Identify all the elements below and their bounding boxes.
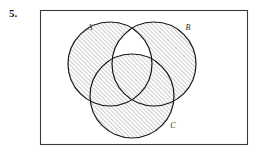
shaded-region-hatching xyxy=(0,0,259,155)
page-canvas: 5. xyxy=(0,0,259,155)
set-label-a: A xyxy=(87,23,93,32)
set-label-c: C xyxy=(170,121,176,130)
set-label-b: B xyxy=(186,23,191,32)
venn-diagram-figure: A B C xyxy=(0,0,259,155)
